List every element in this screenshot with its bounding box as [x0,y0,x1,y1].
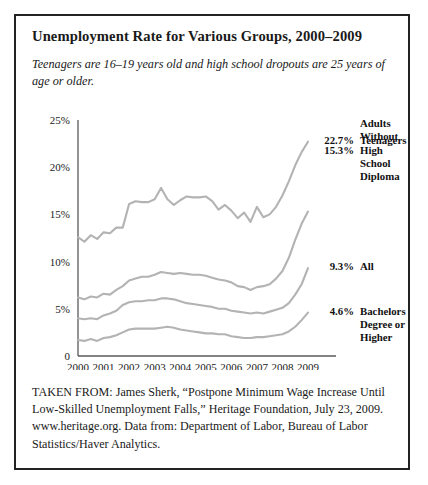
y-tick-label: 25% [50,114,70,126]
x-tick-label: 2005 [195,361,218,370]
series-name-label: High [360,144,383,156]
y-tick-label: 20% [50,161,70,173]
series-line [78,212,308,300]
source-caption: TAKEN FROM: James Sherk, “Postpone Minim… [32,384,392,453]
figure-subtitle: Teenagers are 16–19 years old and high s… [32,56,390,90]
x-tick-label: 2001 [93,361,115,370]
x-axis-tick-labels: 2000200120022003200420052006200720082009 [67,361,320,370]
y-tick-label: 10% [50,256,70,268]
series-name-label: Higher [360,331,393,343]
y-tick-label: 5% [55,303,70,315]
x-tick-label: 2002 [118,361,140,370]
x-tick-label: 2003 [144,361,167,370]
series-end-labels: 22.7%Teenagers15.3%AdultsWithoutHighScho… [324,117,406,343]
series-name-label: Degree or [360,318,405,330]
series-value-label: 9.3% [330,260,354,272]
series-line [78,313,308,341]
x-tick-label: 2006 [220,361,243,370]
series-name-label: Bachelors [360,305,406,317]
series-value-label: 4.6% [330,305,354,317]
chart-svg: 05%10%15%20%25% 200020012002200320042005… [16,108,408,370]
series-name-label: All [360,260,374,272]
series-name-label: School [360,157,391,169]
series-name-label: Diploma [360,170,400,182]
series-line [78,142,308,242]
x-tick-label: 2004 [169,361,192,370]
figure-container: Unemployment Rate for Various Groups, 20… [14,14,410,470]
x-tick-label: 2007 [246,361,269,370]
y-tick-label: 15% [50,208,70,220]
line-chart: 05%10%15%20%25% 200020012002200320042005… [16,108,408,370]
series-name-label: Adults [360,117,391,129]
x-tick-label: 2009 [297,361,320,370]
y-axis-tick-labels: 05%10%15%20%25% [50,114,71,362]
series-name-label: Without [360,130,399,142]
page-title: Unemployment Rate for Various Groups, 20… [32,28,396,45]
x-tick-label: 2000 [67,361,90,370]
series-lines [78,142,308,341]
series-value-label: 15.3% [324,144,354,156]
x-tick-label: 2008 [271,361,294,370]
